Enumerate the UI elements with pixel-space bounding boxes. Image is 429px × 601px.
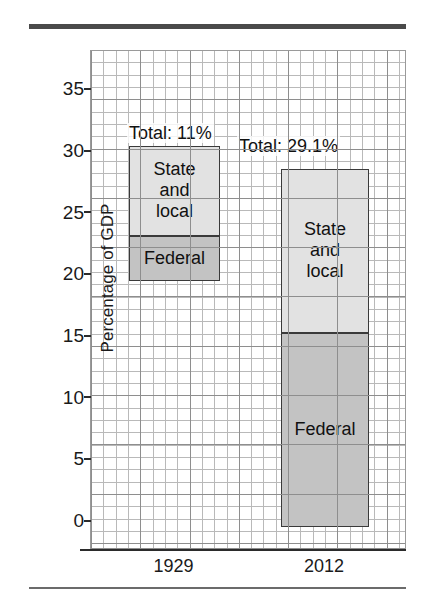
bar-2012-segment-federal: Federal [281,333,369,528]
x-axis-baseline [80,549,406,551]
y-tick-label-30: 30 [38,141,84,160]
y-axis-ticks: 35 30 25 20 15 10 5 0 [32,0,84,601]
bar-1929-federal-label: Federal [144,248,205,269]
y-tick-label-15: 15 [38,326,84,345]
x-tick-label-1929: 1929 [128,556,219,576]
y-tick-label-0: 0 [38,511,84,530]
y-tick-mark-5 [84,458,91,460]
bottom-rule-divider [29,587,406,589]
y-tick-mark-20 [84,273,91,275]
bar-2012-state-and-local-label: State and local [304,219,346,282]
x-tick-label-2012: 2012 [280,556,368,576]
chart-figure: State and local Federal State and local … [0,0,429,601]
bar-2012-total-annotation: Total: 29.1% [237,136,340,156]
plot-area: State and local Federal State and local … [90,50,406,550]
y-tick-mark-15 [84,335,91,337]
y-tick-label-5: 5 [38,449,84,468]
top-rule-divider [29,24,406,29]
y-axis-title: Percentage of GDP [98,158,118,398]
y-tick-mark-0 [84,520,91,522]
bar-1929-state-and-local-label: State and local [153,159,195,222]
y-tick-mark-10 [84,396,91,398]
y-tick-mark-25 [84,211,91,213]
y-tick-label-10: 10 [38,388,84,407]
bar-1929-segment-state-and-local: State and local [129,146,220,236]
y-tick-label-35: 35 [38,79,84,98]
y-tick-mark-35 [84,88,91,90]
bar-2012-segment-state-and-local: State and local [281,169,369,333]
y-tick-mark-30 [84,150,91,152]
bar-1929-total-annotation: Total: 11% [127,123,214,143]
bar-2012-federal-label: Federal [294,419,355,440]
bar-1929-segment-federal: Federal [129,236,220,282]
y-tick-label-20: 20 [38,264,84,283]
y-tick-label-25: 25 [38,203,84,222]
